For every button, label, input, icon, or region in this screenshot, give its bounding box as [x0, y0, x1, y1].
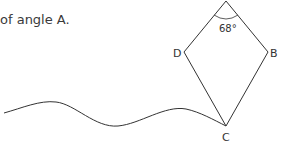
- wavy-torn-edge: [4, 102, 226, 126]
- vertex-label-c: C: [222, 131, 230, 144]
- vertex-label-d: D: [173, 47, 181, 60]
- angle-arc-A: [214, 15, 238, 19]
- kite-shape: [184, 1, 268, 126]
- kite-figure: 68° D B C: [0, 0, 283, 146]
- vertex-label-b: B: [270, 47, 278, 60]
- angle-label: 68°: [219, 23, 237, 34]
